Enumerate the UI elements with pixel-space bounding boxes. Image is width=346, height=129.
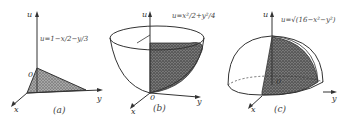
panel-c-caption: (c) — [274, 105, 286, 114]
panel-c-y-label: y — [332, 95, 337, 103]
panel-c-equation: u=√(16−x²−y²) — [281, 17, 335, 24]
panel-b-origin-label: 0 — [150, 94, 155, 102]
u-axis-arrow — [148, 11, 152, 17]
y-axis-arrow — [97, 88, 103, 92]
u-axis-arrow — [35, 11, 39, 17]
panel-a — [11, 11, 103, 107]
panel-c — [228, 11, 337, 109]
panel-b-u-label: u — [142, 11, 147, 19]
panel-a-caption: (a) — [53, 106, 65, 115]
hemisphere-shaded-octant — [262, 37, 318, 95]
panel-b-caption: (b) — [153, 104, 166, 113]
inner-edge — [137, 35, 150, 43]
panel-c-origin-label: 0 — [276, 78, 281, 86]
panel-b-equation: u=x²/2+y²/4 — [172, 13, 215, 20]
panel-c-u-label: u — [263, 11, 268, 19]
paraboloid-left-wall — [110, 38, 150, 93]
panel-a-u-label: u — [27, 11, 32, 19]
plane-surface — [27, 68, 86, 93]
x-axis — [132, 93, 150, 107]
panel-a-y-label: y — [97, 95, 102, 103]
panel-a-origin-label: 0 — [28, 71, 33, 79]
panel-a-x-label: x — [14, 106, 19, 114]
panel-c-x-label: x — [251, 106, 256, 114]
panel-b-x-label: x — [131, 108, 136, 116]
panel-b-y-label: y — [197, 98, 202, 106]
panel-a-equation: u=1−x/2−y/3 — [40, 36, 88, 43]
u-axis-arrow — [270, 11, 274, 17]
panel-b — [110, 11, 204, 109]
y-axis — [150, 93, 198, 97]
